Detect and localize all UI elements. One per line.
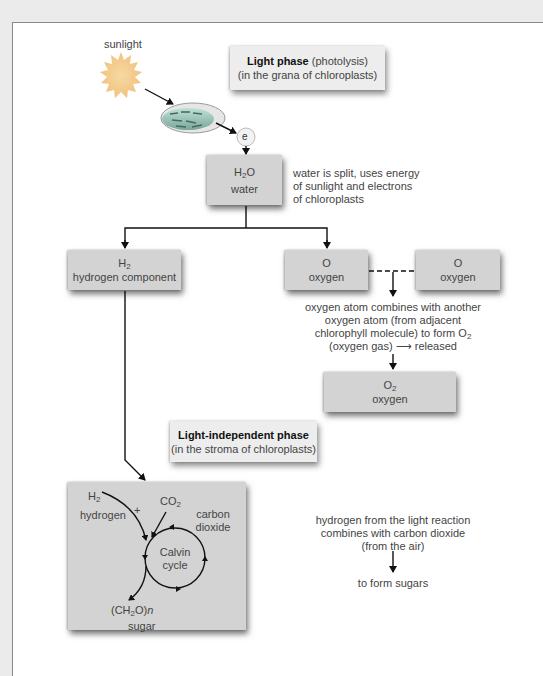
light-phase-box: Light phase (photolysis) (in the grana o…	[230, 46, 385, 90]
calvin-hydrogen-label: hydrogen	[80, 509, 126, 522]
calvin-co2-formula: CO2	[160, 495, 181, 508]
light-phase-subtitle: (in the grana of chloroplasts)	[238, 68, 377, 82]
sunlight-label: sunlight	[104, 38, 142, 51]
water-formula: H2O	[234, 165, 255, 179]
oxygen-atom-2-formula: O	[454, 256, 463, 270]
calvin-cycle-label: Calvin cycle	[150, 546, 200, 572]
oxygen-gas-formula: O2	[383, 378, 396, 392]
sugar-formation-note: hydrogen from the light reaction combine…	[293, 514, 493, 553]
oxygen-gas-name: oxygen	[372, 392, 407, 406]
oxygen-atom-2-name: oxygen	[440, 270, 475, 284]
calvin-sugar-label: sugar	[128, 620, 156, 633]
light-phase-title-suffix: (photolysis)	[309, 55, 368, 67]
oxygen-atom-1-name: oxygen	[309, 270, 344, 284]
electron-label: e	[242, 130, 248, 143]
water-box: H2O water	[207, 155, 282, 205]
light-independent-title: Light-independent phase	[178, 429, 309, 441]
oxygen-combine-note: oxygen atom combines with another oxygen…	[293, 301, 493, 353]
oxygen-atom-box-1: O oxygen	[285, 250, 368, 290]
hydrogen-name: hydrogen component	[73, 270, 176, 284]
calvin-cycle-box: H2 + hydrogen CO2 carbon dioxide Calvin …	[68, 482, 246, 630]
hydrogen-formula: H2	[118, 256, 130, 270]
oxygen-atom-box-2: O oxygen	[416, 250, 500, 290]
hydrogen-box: H2 hydrogen component	[68, 250, 181, 290]
calvin-plus-sign: +	[134, 504, 140, 517]
oxygen-gas-box: O2 oxygen	[324, 372, 456, 412]
calvin-h2-formula: H2	[88, 490, 100, 503]
calvin-sugar-formula: (CH2O)n	[111, 604, 153, 617]
water-name: water	[231, 182, 258, 196]
light-independent-phase-box: Light-independent phase (in the stroma o…	[170, 421, 317, 462]
oxygen-atom-1-formula: O	[322, 256, 331, 270]
light-independent-subtitle: (in the stroma of chloroplasts)	[171, 442, 316, 456]
water-split-note: water is split, uses energy of sunlight …	[293, 167, 420, 206]
sugar-result-label: to form sugars	[293, 577, 493, 590]
calvin-co2-label: carbon dioxide	[180, 508, 246, 534]
light-phase-title: Light phase	[247, 55, 309, 67]
